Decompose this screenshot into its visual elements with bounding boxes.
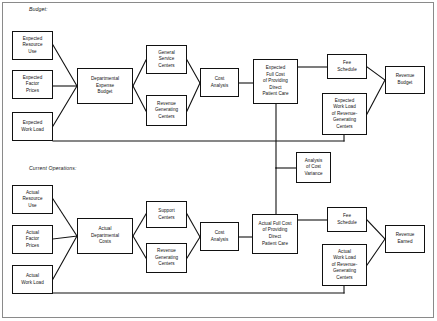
node-label: Actual Work Load	[21, 273, 44, 286]
node-label: Analysis of Cost Variance	[304, 158, 322, 178]
node-revenue-generating-centers-budget[interactable]: Revenue Generating Centers	[146, 95, 187, 126]
node-label: Expected Factor Prices	[23, 75, 43, 95]
node-actual-resource-use[interactable]: Actual Resource Use	[12, 185, 53, 214]
node-actual-factor-prices[interactable]: Actual Factor Prices	[12, 225, 53, 254]
node-actual-departmental-costs[interactable]: Actual Departmental Costs	[77, 218, 133, 254]
node-label: Support Centers	[158, 208, 174, 221]
section-label-budget: Budget:	[29, 6, 48, 12]
node-revenue-earned[interactable]: Revenue Earned	[385, 225, 425, 253]
node-expected-resource-use[interactable]: Expected Resource Use	[12, 31, 53, 60]
node-actual-full-cost[interactable]: Actual Full Cost of Providing Direct Pat…	[252, 214, 298, 254]
node-label: Revenue Budget	[396, 73, 415, 86]
node-expected-factor-prices[interactable]: Expected Factor Prices	[12, 70, 53, 99]
node-support-centers[interactable]: Support Centers	[146, 201, 187, 228]
node-label: General Service Centers	[158, 50, 175, 70]
node-label: Actual Full Cost of Providing Direct Pat…	[259, 221, 292, 247]
node-analysis-of-cost-variance[interactable]: Analysis of Cost Variance	[296, 152, 331, 183]
node-expected-work-load[interactable]: Expected Work Load	[12, 112, 53, 141]
node-label: Expected Work Load	[21, 120, 44, 133]
node-fee-schedule-budget[interactable]: Fee Schedule	[327, 54, 367, 79]
node-label: Actual Resource Use	[22, 190, 42, 210]
node-label: Expected Resource Use	[22, 36, 42, 56]
diagram-border	[2, 2, 434, 318]
node-label: Cost Analysis	[211, 76, 229, 89]
node-label: Fee Schedule	[337, 60, 357, 73]
node-departmental-expense-budget[interactable]: Departmental Expense Budget	[77, 68, 133, 104]
node-expected-work-load-revenue-generating-centers[interactable]: Expected Work Load of Revenue- Generatin…	[322, 93, 367, 135]
node-label: Expected Work Load of Revenue- Generatin…	[332, 98, 358, 131]
node-fee-schedule-current[interactable]: Fee Schedule	[327, 207, 367, 232]
node-expected-full-cost[interactable]: Expected Full Cost of Providing Direct P…	[253, 59, 298, 104]
node-cost-analysis-budget[interactable]: Cost Analysis	[200, 68, 239, 97]
diagram-canvas: Budget: Current Operations: Expected Res…	[0, 0, 437, 321]
node-label: Revenue Generating Centers	[155, 101, 178, 121]
node-actual-work-load[interactable]: Actual Work Load	[12, 265, 53, 294]
node-cost-analysis-current[interactable]: Cost Analysis	[200, 222, 239, 251]
node-label: Cost Analysis	[211, 230, 229, 243]
node-label: Revenue Generating Centers	[155, 248, 178, 268]
node-label: Actual Factor Prices	[26, 230, 39, 250]
section-label-current-operations: Current Operations:	[29, 165, 76, 171]
node-label: Actual Departmental Costs	[91, 226, 119, 246]
node-label: Actual Work Load of Revenue- Generating …	[332, 249, 358, 282]
node-revenue-budget[interactable]: Revenue Budget	[385, 66, 425, 94]
node-revenue-generating-centers-current[interactable]: Revenue Generating Centers	[146, 243, 187, 273]
node-label: Fee Schedule	[337, 213, 357, 226]
node-label: Expected Full Cost of Providing Direct P…	[262, 65, 288, 98]
node-label: Departmental Expense Budget	[91, 76, 119, 96]
node-general-service-centers[interactable]: General Service Centers	[146, 45, 187, 74]
node-actual-work-load-revenue-generating-centers[interactable]: Actual Work Load of Revenue- Generating …	[322, 244, 367, 286]
node-label: Revenue Earned	[396, 232, 415, 245]
